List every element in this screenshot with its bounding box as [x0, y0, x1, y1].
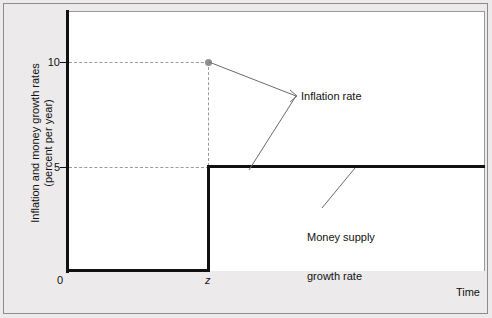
figure-root: Inflation and money growth rates (percen…	[0, 0, 492, 318]
y-axis-line	[66, 10, 69, 273]
annotation-money-supply-line-2: growth rate	[307, 270, 375, 283]
series-money-supply-segment-jump	[207, 165, 210, 272]
y-tick-label-10: 10	[28, 56, 60, 68]
y-tick-mark-5	[60, 167, 67, 168]
y-axis-title-line-1: Inflation and money growth rates	[29, 43, 42, 243]
y-tick-label-5: 5	[28, 161, 60, 173]
guide-dashed-y5	[69, 167, 209, 168]
inflation-spike-marker	[205, 59, 212, 66]
annotation-money-supply-line-1: Money supply	[307, 231, 375, 244]
x-tick-label-z: z	[205, 274, 211, 286]
y-tick-label-0: 0	[57, 274, 63, 286]
y-tick-mark-10	[60, 62, 67, 63]
y-axis-title-line-2: (percent per year)	[42, 43, 55, 243]
guide-dashed-y10	[69, 62, 209, 63]
series-money-supply-segment-low	[68, 269, 209, 272]
x-axis-title: Time	[456, 286, 480, 298]
plot-area	[68, 11, 485, 271]
annotation-inflation-rate: Inflation rate	[301, 90, 362, 103]
series-money-supply-segment-high	[207, 165, 485, 168]
annotation-money-supply: Money supply growth rate	[307, 205, 375, 309]
